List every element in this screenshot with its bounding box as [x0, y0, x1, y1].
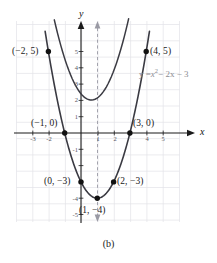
figure-caption: (b)	[0, 238, 217, 249]
point-label-neg2-5: (−2, 5)	[12, 47, 39, 57]
y-tick-4: 4	[69, 65, 78, 72]
point--1-0	[62, 130, 67, 135]
plot-area: y x -3 -2 1 2 4 5 5 4 3 2 1 -1 -4 -5 (−2…	[0, 0, 217, 240]
equation-label: y =x2− 2x − 3	[139, 70, 188, 79]
x-tick--2: -2	[43, 136, 55, 143]
x-axis-label: x	[200, 127, 204, 137]
y-tick-3: 3	[69, 81, 78, 88]
y-tick--5: -5	[67, 212, 78, 219]
equation-rest: − 2x − 3	[158, 69, 188, 79]
point-3-0	[127, 130, 132, 135]
y-tick--4: -4	[67, 196, 78, 203]
x-tick-4: 4	[142, 136, 152, 143]
point-2--3	[111, 179, 116, 184]
point-label-3-0: (3, 0)	[133, 119, 154, 129]
point--2-5	[46, 49, 51, 54]
point-label-0-neg3: (0, −3)	[44, 177, 71, 187]
figure-parabola: y x -3 -2 1 2 4 5 5 4 3 2 1 -1 -4 -5 (−2…	[0, 0, 217, 263]
x-tick-5: 5	[158, 136, 168, 143]
point-label-neg1-0: (−1, 0)	[31, 119, 58, 129]
y-tick--1: -1	[67, 147, 78, 154]
y-axis-label: y	[79, 9, 83, 19]
point-0--3	[78, 179, 83, 184]
x-tick--3: -3	[27, 136, 39, 143]
y-tick-5: 5	[69, 49, 78, 56]
point-4-5	[144, 49, 149, 54]
point-label-2-neg3: (2, −3)	[117, 177, 144, 187]
point-label-4-5: (4, 5)	[150, 47, 171, 57]
y-tick-1: 1	[69, 114, 78, 121]
point-label-1-neg4: (1, −4)	[79, 206, 106, 216]
x-tick-1: 1	[93, 136, 103, 143]
equation-lhs: y =	[139, 69, 151, 79]
x-tick-2: 2	[110, 136, 120, 143]
axis-of-symmetry-dashed	[95, 21, 101, 222]
point-1--4	[95, 196, 100, 201]
y-tick-2: 2	[69, 97, 78, 104]
